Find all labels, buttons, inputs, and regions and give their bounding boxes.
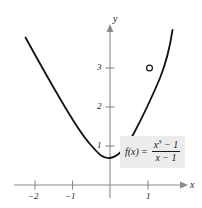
x-tick-label-1: 1 [146, 192, 151, 201]
y-tick-label-1: 1 [97, 141, 102, 150]
y-axis [107, 24, 114, 198]
formula-denominator: x − 1 [152, 152, 181, 163]
formula-function-name: f(x) [125, 146, 139, 157]
x-tick-label-minus-1: −1 [65, 192, 76, 201]
y-tick-label-3: 3 [97, 63, 102, 72]
formula-fraction: x3 − 1x − 1 [152, 140, 181, 163]
formula-numerator-rest: − 1 [164, 139, 178, 150]
x-axis [14, 182, 188, 189]
function-graph-figure: x y −2 −1 1 1 2 3 f(x)=x3 − 1x − 1 [0, 0, 202, 208]
x-axis-label: x [190, 180, 194, 190]
x-tick-label-minus-2: −2 [28, 192, 39, 201]
formula-numerator-exponent: 3 [158, 138, 162, 146]
formula-equals: = [141, 146, 148, 157]
function-formula-annotation: f(x)=x3 − 1x − 1 [120, 136, 185, 168]
open-circle-discontinuity-marker [147, 65, 153, 71]
y-axis-label: y [113, 14, 117, 24]
formula-numerator: x3 − 1 [152, 140, 181, 152]
y-tick-label-2: 2 [97, 102, 102, 111]
